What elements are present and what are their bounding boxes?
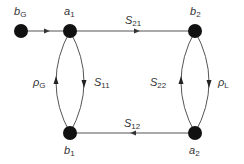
- edge-S11: [70, 31, 84, 133]
- label-S12: S12: [124, 118, 140, 131]
- label-rhoG: ρG: [33, 77, 46, 90]
- label-rhoL: ρL: [218, 77, 229, 90]
- label-bG: bG: [14, 6, 26, 19]
- label-b1: b1: [64, 145, 75, 158]
- edge-S22: [181, 31, 195, 133]
- node-a2: [188, 126, 202, 140]
- node-a1: [63, 24, 77, 38]
- label-a1: a1: [64, 6, 75, 19]
- arrow-up-icon: [179, 76, 184, 84]
- node-bG: [14, 24, 28, 38]
- label-a2: a2: [189, 145, 200, 158]
- edge-rhoG: [56, 31, 70, 133]
- label-S21: S21: [125, 15, 141, 28]
- arrow-up-icon: [54, 76, 59, 84]
- node-b1: [63, 126, 77, 140]
- label-b2: b2: [190, 6, 201, 19]
- node-b2: [188, 24, 202, 38]
- arrow-down-icon: [82, 80, 87, 88]
- label-S22: S22: [150, 77, 166, 90]
- edge-rhoL: [195, 31, 209, 133]
- label-S11: S11: [94, 77, 110, 90]
- arrow-down-icon: [207, 80, 212, 88]
